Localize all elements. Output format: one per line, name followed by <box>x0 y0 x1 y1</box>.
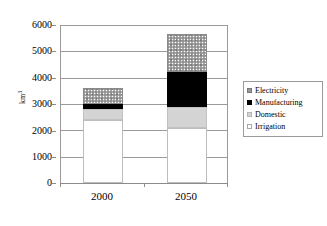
bar-segment-2000-manufacturing[interactable] <box>83 104 123 109</box>
gridline-6000 <box>61 25 227 26</box>
stacked-bar-chart: km3 6000 5000 4000 3000 2000 1000 0 <box>0 0 327 226</box>
y-tick-mark-1000 <box>52 157 56 158</box>
y-tick-mark-2000 <box>52 131 56 132</box>
y-tick-mark-4000 <box>52 78 56 79</box>
legend-swatch-domestic-icon <box>247 112 252 117</box>
y-tick-mark-6000 <box>52 25 56 26</box>
legend-swatch-electricity-icon <box>247 88 252 93</box>
plot-inner <box>61 25 227 183</box>
x-axis-tick-right <box>227 183 228 187</box>
legend-swatch-irrigation-icon <box>247 124 252 129</box>
bar-segment-2000-domestic[interactable] <box>83 109 123 120</box>
x-tick-label-2050: 2050 <box>151 190 221 203</box>
y-tick-label-3000: 3000 <box>32 99 52 109</box>
x-axis-tick-left <box>60 183 61 187</box>
y-tick-label-6000: 6000 <box>32 20 52 30</box>
y-tick-label-1000: 1000 <box>32 152 52 162</box>
legend-label-manufacturing: Manufacturing <box>255 98 303 107</box>
legend-swatch-manufacturing-icon <box>247 100 252 105</box>
y-axis-tick-labels: 6000 5000 4000 3000 2000 1000 0 <box>20 0 56 226</box>
bar-segment-2050-irrigation[interactable] <box>167 128 207 183</box>
y-tick-mark-3000 <box>52 104 56 105</box>
x-axis-tick-middle <box>144 183 145 187</box>
legend-item-irrigation[interactable]: Irrigation <box>247 121 319 132</box>
y-tick-label-2000: 2000 <box>32 126 52 136</box>
y-tick-mark-0 <box>52 183 56 184</box>
chart-legend: Electricity Manufacturing Domestic Irrig… <box>243 81 323 137</box>
legend-item-electricity[interactable]: Electricity <box>247 85 319 96</box>
legend-label-electricity: Electricity <box>255 86 288 95</box>
y-tick-label-4000: 4000 <box>32 73 52 83</box>
legend-item-domestic[interactable]: Domestic <box>247 109 319 120</box>
bar-segment-2050-domestic[interactable] <box>167 107 207 128</box>
plot-area <box>60 25 228 183</box>
bar-segment-2050-manufacturing[interactable] <box>167 72 207 106</box>
bar-segment-2050-electricity[interactable] <box>167 34 207 72</box>
x-tick-label-2000: 2000 <box>67 190 137 203</box>
legend-label-irrigation: Irrigation <box>255 122 285 131</box>
y-tick-label-5000: 5000 <box>32 46 52 56</box>
bar-segment-2000-electricity[interactable] <box>83 88 123 104</box>
legend-label-domestic: Domestic <box>255 110 286 119</box>
legend-item-manufacturing[interactable]: Manufacturing <box>247 97 319 108</box>
bar-segment-2000-irrigation[interactable] <box>83 120 123 183</box>
y-tick-mark-5000 <box>52 51 56 52</box>
